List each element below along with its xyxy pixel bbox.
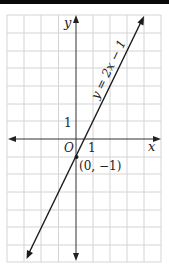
line-y-equals-2x-minus-1 xyxy=(27,16,145,259)
point-label: (0, −1) xyxy=(79,159,121,173)
y-axis xyxy=(73,15,79,261)
coordinate-plane: y x O 1 1 (0, −1) y = 2x − 1 xyxy=(0,0,169,274)
line-equation-label: y = 2x − 1 xyxy=(88,37,129,102)
y-axis-label: y xyxy=(63,15,72,30)
origin-label: O xyxy=(64,141,74,155)
line-top-arrow-icon xyxy=(138,16,145,26)
x-axis-label: x xyxy=(148,139,156,154)
x-tick-label-1: 1 xyxy=(88,141,96,155)
y-intercept-point xyxy=(75,155,79,159)
x-axis-left-arrow-icon xyxy=(8,136,16,142)
y-axis-up-arrow-icon xyxy=(73,15,79,23)
y-axis-down-arrow-icon xyxy=(73,253,79,261)
y-tick-label-1: 1 xyxy=(64,116,72,130)
